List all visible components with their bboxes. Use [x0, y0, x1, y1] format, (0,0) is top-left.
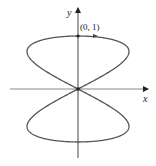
- diagram-canvas: y x (0, 1): [0, 0, 156, 166]
- y-axis-label: y: [66, 7, 72, 18]
- point-label: (0, 1): [80, 22, 100, 32]
- origin-point: [76, 87, 80, 91]
- point-0-1: [76, 34, 79, 37]
- x-axis-label: x: [142, 93, 148, 104]
